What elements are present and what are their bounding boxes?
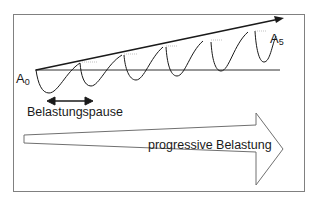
peak-marks: [82, 31, 266, 62]
diagram-canvas: [0, 0, 316, 206]
cycle-5: [211, 32, 248, 71]
pause-double-arrow: [47, 97, 93, 105]
trend-arrowhead-icon: [274, 16, 284, 23]
label-a5: A5: [270, 31, 284, 47]
label-a0: A0: [16, 71, 30, 87]
cycle-3: [124, 47, 163, 80]
cycle-4: [166, 41, 203, 76]
arrow-left-icon: [47, 97, 55, 105]
trend-line: [36, 20, 277, 71]
label-belastungspause: Belastungspause: [27, 105, 123, 119]
arrow-right-icon: [85, 97, 93, 105]
label-progressive-belastung: progressive Belastung: [148, 138, 272, 152]
cycle-1: [36, 63, 80, 93]
